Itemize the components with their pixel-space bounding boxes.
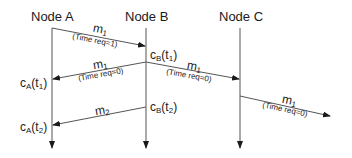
clock-label-cb-t2: cB(t2) <box>150 101 177 115</box>
message-label: m2 <box>94 103 111 119</box>
clock-label-cb-t1: cB(t1) <box>150 49 177 63</box>
clock-label-ca-t2: cA(t2) <box>20 121 47 135</box>
node-a-title: Node A <box>31 10 74 23</box>
node-b-title: Node B <box>125 10 168 23</box>
sequence-diagram: Node A Node B Node C m1 (Time req=1) m1 … <box>0 0 352 158</box>
node-c-title: Node C <box>219 10 263 23</box>
clock-label-ca-t1: cA(t1) <box>20 77 47 91</box>
